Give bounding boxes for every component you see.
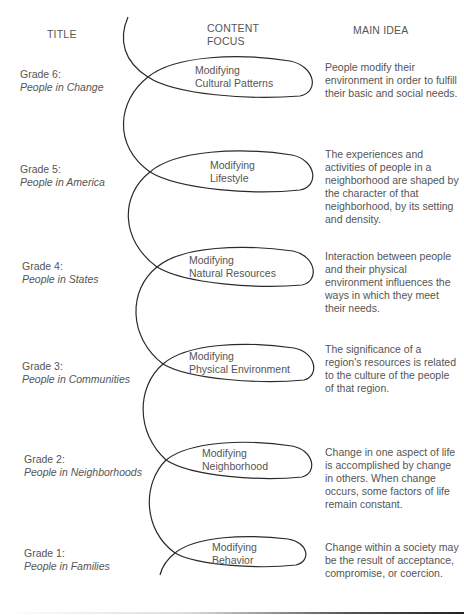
focus-line2: Natural Resources [189,267,276,280]
spiral-swing-3-2 [143,364,166,460]
grade-label: Grade 1: [24,547,110,560]
column-header-title: TITLE [47,28,77,41]
column-header-content-focus-line1: CONTENT [207,22,259,35]
focus-line2: Lifestyle [210,172,255,185]
content-focus-6: Modifying Cultural Patterns [195,64,273,90]
book-title: People in States [22,273,98,286]
book-title: People in Change [20,81,103,94]
content-focus-2: Modifying Neighborhood [202,447,268,473]
focus-line2: Behavior [212,554,257,567]
content-focus-4: Modifying Natural Resources [189,254,276,280]
focus-line2: Neighborhood [202,460,268,473]
book-title: People in Families [24,560,110,573]
content-focus-5: Modifying Lifestyle [210,159,255,185]
main-idea-1: Change within a society may be the resul… [325,541,460,580]
grade-label: Grade 4: [22,260,98,273]
focus-line1: Modifying [212,541,257,554]
grade-label: Grade 6: [20,68,103,81]
book-title: People in Neighborhoods [24,466,142,479]
focus-line1: Modifying [189,350,290,363]
spiral-swing-6-5 [123,77,150,172]
spiral-swing-2-1 [149,460,175,553]
grade-title-6: Grade 6: People in Change [20,68,103,94]
focus-line1: Modifying [195,64,273,77]
spiral-swing-5-4 [128,172,157,267]
focus-line1: Modifying [189,254,276,267]
grade-title-1: Grade 1: People in Families [24,547,110,573]
column-header-main-idea: MAIN IDEA [353,24,408,37]
grade-label: Grade 3: [22,360,130,373]
spiral-tail-arc [160,553,175,575]
grade-title-2: Grade 2: People in Neighborhoods [24,453,142,479]
grade-title-5: Grade 5: People in America [20,163,105,189]
column-header-content-focus-line2: FOCUS [207,35,259,48]
grade-title-3: Grade 3: People in Communities [22,360,130,386]
grade-label: Grade 2: [24,453,142,466]
column-header-content-focus: CONTENT FOCUS [207,22,259,48]
focus-line1: Modifying [202,447,268,460]
focus-line1: Modifying [210,159,255,172]
grade-title-4: Grade 4: People in States [22,260,98,286]
main-idea-3: The significance of a region's resources… [325,343,460,395]
spiral-entry-arc [123,17,148,77]
content-focus-3: Modifying Physical Environment [189,350,290,376]
grade-label: Grade 5: [20,163,105,176]
focus-line2: Cultural Patterns [195,77,273,90]
content-focus-1: Modifying Behavior [212,541,257,567]
book-title: People in Communities [22,373,130,386]
bottom-divider [0,612,464,614]
main-idea-2: Change in one aspect of life is accompli… [325,446,460,511]
book-title: People in America [20,176,105,189]
main-idea-5: The experiences and activities of people… [325,148,460,226]
main-idea-4: Interaction between people and their phy… [325,250,460,315]
focus-line2: Physical Environment [189,363,290,376]
spiral-swing-4-3 [136,267,163,364]
main-idea-6: People modify their environment in order… [325,61,460,100]
